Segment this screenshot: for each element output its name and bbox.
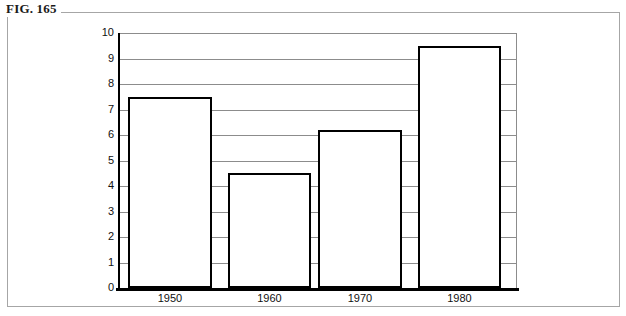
x-axis-tick-labels: 1950196019701980 — [118, 0, 518, 316]
y-axis-tick-label: 10 — [92, 27, 114, 38]
figure-label: FIG. 165 — [6, 1, 61, 17]
y-axis-tick-label: 5 — [92, 155, 114, 166]
x-axis-tick-label: 1980 — [430, 292, 490, 304]
x-axis-tick-label: 1960 — [240, 292, 300, 304]
y-axis-tick-label: 0 — [92, 282, 114, 293]
y-axis-tick-label: 6 — [92, 129, 114, 140]
y-axis-tick-label: 8 — [92, 78, 114, 89]
x-axis-tick-label: 1970 — [330, 292, 390, 304]
y-axis-tick-label: 7 — [92, 104, 114, 115]
y-axis-tick-label: 4 — [92, 180, 114, 191]
y-axis-tick-label: 3 — [92, 206, 114, 217]
x-axis-tick-label: 1950 — [140, 292, 200, 304]
y-axis-tick-labels: 012345678910 — [90, 33, 114, 288]
y-axis-tick-label: 2 — [92, 231, 114, 242]
figure-container: FIG. 165 012345678910 1950196019701980 — [0, 0, 626, 316]
y-axis-tick-label: 1 — [92, 257, 114, 268]
y-axis-tick-label: 9 — [92, 53, 114, 64]
